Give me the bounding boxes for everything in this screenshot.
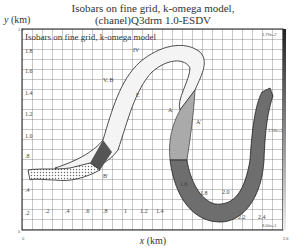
- x-left-label: 0: [22, 236, 25, 241]
- y-top-label: 1.8: [18, 27, 24, 32]
- svg-text:.2: .2: [45, 208, 50, 214]
- svg-text:1.2: 1.2: [25, 111, 33, 117]
- svg-text:1.4: 1.4: [25, 90, 33, 96]
- svg-text:E: E: [136, 92, 140, 98]
- svg-text:B': B': [103, 173, 108, 179]
- x-right-label: 2.6: [283, 236, 289, 241]
- svg-text:1: 1: [124, 208, 127, 214]
- svg-text:2.0: 2.0: [222, 189, 230, 195]
- svg-text:IV: IV: [133, 47, 140, 53]
- svg-text:.4: .4: [65, 208, 70, 214]
- inner-title: Isobars on fine grid, k-omega model: [25, 32, 156, 42]
- y-bottom-label: 0: [18, 229, 21, 234]
- colorbar-min: 8.00e+1: [262, 223, 277, 228]
- svg-text:1.8: 1.8: [200, 190, 208, 196]
- svg-text:.8: .8: [25, 153, 30, 159]
- plot-area: Isobars on fine grid, k-omega model 1.8 …: [0, 0, 306, 250]
- svg-text:2.2: 2.2: [238, 214, 246, 220]
- svg-text:.8: .8: [103, 208, 108, 214]
- svg-text:.2: .2: [25, 210, 30, 216]
- svg-text:1.8: 1.8: [25, 48, 33, 54]
- colorbar-mid: 1.58e+2: [268, 128, 283, 133]
- svg-text:1.6: 1.6: [25, 68, 33, 74]
- colorbar: [283, 29, 286, 230]
- svg-text:2.4: 2.4: [258, 214, 266, 220]
- svg-text:A: A: [168, 107, 173, 113]
- svg-text:1.4: 1.4: [156, 208, 164, 214]
- svg-text:1.0: 1.0: [25, 133, 33, 139]
- colorbar-max: 1.79e+2: [262, 32, 277, 37]
- svg-text:.6: .6: [85, 208, 90, 214]
- svg-text:A': A': [196, 119, 201, 125]
- svg-text:1.6: 1.6: [180, 181, 188, 187]
- svg-text:1.2: 1.2: [140, 208, 148, 214]
- svg-text:V, B: V, B: [103, 77, 114, 83]
- svg-text:.4: .4: [25, 187, 30, 193]
